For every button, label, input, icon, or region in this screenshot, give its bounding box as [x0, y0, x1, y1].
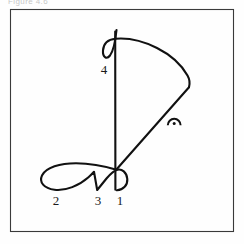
accent-dot-mark	[173, 122, 176, 125]
figure-root: Figure 4.6 1 2 3 4	[0, 0, 244, 244]
stroke-diagonal-descender	[116, 87, 189, 170]
stroke-trajectory-figure: 1 2 3 4	[0, 0, 244, 244]
segment-label-2: 2	[53, 193, 60, 208]
segment-label-4: 4	[101, 62, 108, 77]
segment-label-1: 1	[117, 193, 124, 208]
segment-label-3: 3	[95, 193, 102, 208]
